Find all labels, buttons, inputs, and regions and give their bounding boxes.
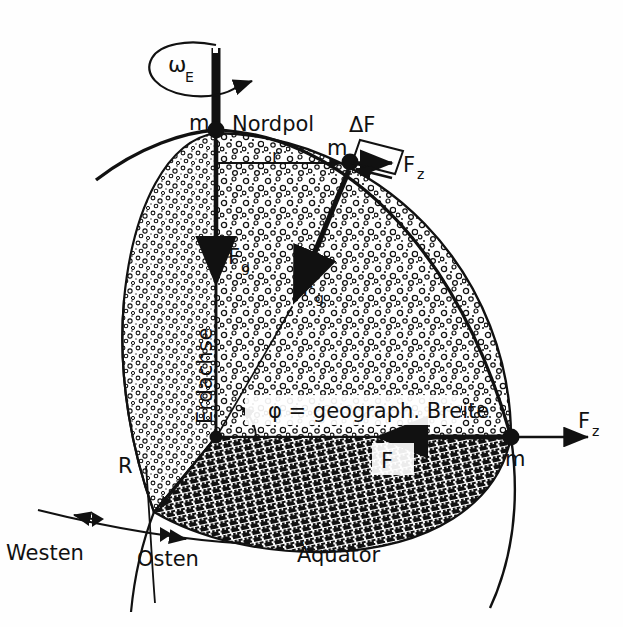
label-fz-surface: F (403, 153, 415, 177)
label-delta-f: ΔF (349, 113, 375, 137)
label-omega-subscript: E (185, 69, 194, 85)
label-radius-r: r (272, 146, 279, 166)
label-fz-equator-subscript: z (592, 423, 599, 439)
label-erdachse: Erdachse (193, 328, 217, 424)
diagram-canvas: ω E m Nordpol r m ΔF F z F g F g Erdachs… (0, 0, 623, 627)
label-osten: Osten (137, 547, 199, 571)
label-latitude: φ = geograph. Breite (268, 399, 489, 423)
label-nordpol: Nordpol (232, 112, 314, 136)
label-mass-surface: m (327, 136, 347, 160)
label-mass-north-pole: m (189, 111, 209, 135)
label-fg-radial: F (302, 276, 314, 300)
label-fz-equator: F (578, 409, 590, 433)
label-radius-R: R (118, 454, 133, 478)
label-mass-equator: m (505, 447, 525, 471)
earth-rotation-figure: ω E m Nordpol r m ΔF F z F g F g Erdachs… (0, 0, 623, 627)
meridian-cut-face (216, 133, 511, 437)
label-force-F: F (381, 449, 393, 473)
label-omega-symbol: ω (168, 52, 186, 77)
label-westen: Westen (6, 541, 84, 565)
label-fg-axis: F (228, 245, 240, 269)
label-fz-surface-subscript: z (417, 166, 424, 182)
rotation-direction-ellipse (149, 43, 252, 97)
mass-point-north-pole (208, 122, 225, 139)
label-aequator: Äquator (297, 542, 381, 567)
label-fg-axis-subscript: g (241, 259, 250, 275)
label-fg-radial-subscript: g (315, 290, 324, 306)
